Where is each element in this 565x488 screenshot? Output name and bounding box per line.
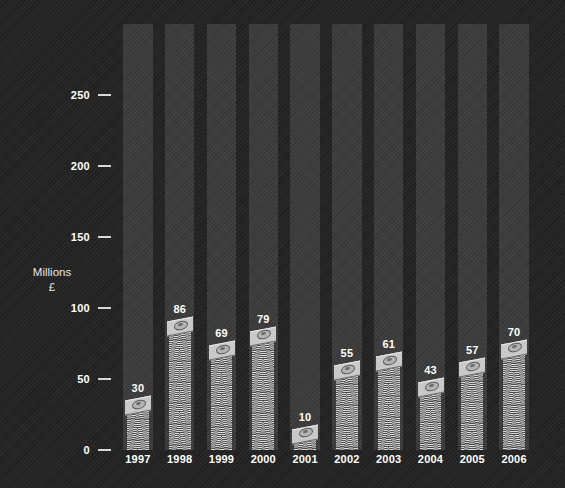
bar[interactable]: 43 xyxy=(420,359,442,450)
banknote-portrait-inner xyxy=(304,430,309,434)
x-tick-label: 2000 xyxy=(242,453,284,465)
y-tick-label: 150 xyxy=(71,231,90,243)
y-tick: 250 xyxy=(0,88,117,102)
y-axis-title-line1: Millions xyxy=(6,265,98,280)
x-tick-label: 1998 xyxy=(159,453,201,465)
x-tick-label: 2002 xyxy=(326,453,368,465)
x-tick-label: 2004 xyxy=(410,453,452,465)
y-tick-mark xyxy=(98,449,111,451)
bar[interactable]: 70 xyxy=(503,321,525,450)
bar-stack-fill xyxy=(169,328,191,450)
column-band xyxy=(290,24,319,450)
banknote-portrait-inner xyxy=(262,332,267,336)
x-tick-label: 1999 xyxy=(201,453,243,465)
bar[interactable]: 69 xyxy=(211,322,233,450)
y-axis-title: Millions £ xyxy=(6,265,98,295)
plot-area: 30866979105561435770 xyxy=(117,24,535,450)
y-tick-label: 50 xyxy=(77,373,90,385)
banknote-icon xyxy=(459,360,485,375)
y-tick: 0 xyxy=(0,443,117,457)
x-tick-label: 1997 xyxy=(117,453,159,465)
y-axis: Millions £ 050100150200250 xyxy=(0,0,117,488)
y-axis-title-line2: £ xyxy=(6,280,98,295)
bar-stack-fill xyxy=(461,369,483,450)
bar-value-label: 86 xyxy=(145,303,215,315)
bar[interactable]: 30 xyxy=(127,377,149,450)
bar[interactable]: 79 xyxy=(252,308,274,450)
bar[interactable]: 86 xyxy=(169,298,191,450)
banknote-icon xyxy=(334,363,360,378)
bar-value-label: 69 xyxy=(187,327,257,339)
banknote-icon xyxy=(418,380,444,395)
bar[interactable]: 10 xyxy=(294,406,316,450)
banknote-icon xyxy=(292,427,318,442)
x-tick-label: 2001 xyxy=(284,453,326,465)
y-tick-label: 200 xyxy=(71,160,90,172)
bar[interactable]: 55 xyxy=(336,342,358,450)
bar-stack-fill xyxy=(336,372,358,450)
bar-stack-fill xyxy=(378,363,400,450)
y-tick: 100 xyxy=(0,301,117,315)
banknote-portrait-inner xyxy=(513,345,518,349)
bar-stack-fill xyxy=(420,389,442,450)
bar-value-label: 79 xyxy=(228,313,298,325)
bar-stack-fill xyxy=(211,352,233,450)
y-tick: 200 xyxy=(0,159,117,173)
y-tick-mark xyxy=(98,236,111,238)
x-axis: 1997199819992000200120022003200420052006 xyxy=(117,453,535,473)
x-tick-label: 2005 xyxy=(451,453,493,465)
banknote-portrait-inner xyxy=(178,322,183,326)
y-tick-label: 250 xyxy=(71,89,90,101)
bar-value-label: 57 xyxy=(437,344,507,356)
y-tick-label: 0 xyxy=(84,444,90,456)
bar[interactable]: 57 xyxy=(461,339,483,450)
y-tick: 50 xyxy=(0,372,117,386)
y-tick: 150 xyxy=(0,230,117,244)
banknote-portrait-inner xyxy=(345,366,350,370)
x-tick-label: 2006 xyxy=(493,453,535,465)
banknote-portrait-inner xyxy=(429,383,434,387)
banknote-portrait-inner xyxy=(471,363,476,367)
y-tick-mark xyxy=(98,94,111,96)
bar-stack-fill xyxy=(252,338,274,450)
banknote-icon xyxy=(501,342,527,357)
bar[interactable]: 61 xyxy=(378,333,400,450)
banknote-icon xyxy=(250,329,276,344)
banknote-icon xyxy=(209,343,235,358)
x-tick-label: 2003 xyxy=(368,453,410,465)
banknote-portrait-inner xyxy=(387,357,392,361)
bar-value-label: 43 xyxy=(396,364,466,376)
y-tick-mark xyxy=(98,307,111,309)
y-tick-mark xyxy=(98,378,111,380)
banknote-icon xyxy=(125,398,151,413)
banknote-portrait-inner xyxy=(136,401,141,405)
banknote-portrait-inner xyxy=(220,346,225,350)
bar-chart: Millions £ 050100150200250 3086697910556… xyxy=(0,0,565,488)
bar-value-label: 70 xyxy=(479,326,549,338)
bar-value-label: 61 xyxy=(354,338,424,350)
bar-stack-fill xyxy=(503,351,525,450)
y-tick-label: 100 xyxy=(71,302,90,314)
bar-value-label: 10 xyxy=(270,411,340,423)
y-tick-mark xyxy=(98,165,111,167)
bar-value-label: 30 xyxy=(103,382,173,394)
